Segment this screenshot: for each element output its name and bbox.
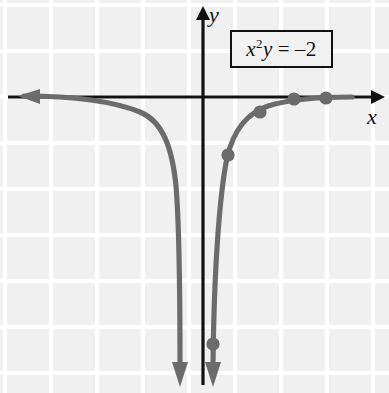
equation-variable: y (263, 37, 273, 61)
equation-label-text: x2y = –2 (246, 36, 316, 62)
data-point (253, 105, 266, 118)
y-axis (196, 6, 210, 385)
equation-relation: = (278, 37, 290, 61)
curve-right-branch (205, 97, 352, 387)
graph-figure: x2y = –2 y x (0, 0, 389, 393)
data-point (319, 91, 332, 104)
x-axis-arrow-icon (371, 90, 385, 104)
y-axis-arrow-icon (196, 6, 210, 20)
plotted-points (206, 91, 332, 350)
left-branch-down-arrow-icon (172, 362, 188, 387)
equation-rhs: –2 (295, 37, 317, 61)
y-axis-label: y (209, 2, 219, 28)
x-axis-label: x (367, 104, 377, 130)
data-point (206, 337, 219, 350)
data-point (221, 148, 234, 161)
equation-label-box: x2y = –2 (230, 30, 333, 68)
right-branch-down-arrow-icon (205, 362, 221, 387)
equation-base: x (246, 37, 256, 61)
curve-left-branch (18, 89, 188, 387)
left-branch-left-arrow-icon (18, 89, 40, 104)
data-point (287, 92, 300, 105)
